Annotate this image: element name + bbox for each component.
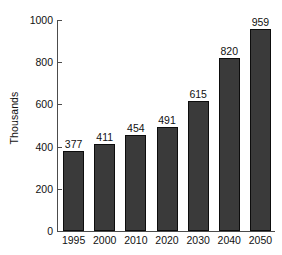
y-tick-label: 400 — [35, 141, 53, 153]
bar-value-label: 491 — [158, 114, 176, 126]
x-axis-label: 1995 — [62, 234, 85, 246]
bar: 820 — [219, 58, 240, 231]
bar: 454 — [125, 135, 146, 231]
y-tick-mark — [58, 62, 62, 63]
x-axis-label: 2000 — [93, 234, 116, 246]
bar-value-label: 411 — [96, 131, 113, 143]
y-tick-mark — [58, 104, 62, 105]
bar-chart: Thousands 02004006008001000 377411454491… — [0, 0, 282, 255]
bar-value-label: 615 — [189, 88, 207, 100]
x-axis-label: 2010 — [124, 234, 147, 246]
bar: 959 — [250, 29, 271, 231]
x-axis-label: 2040 — [218, 234, 241, 246]
x-axis-line — [57, 231, 275, 232]
bar-value-label: 377 — [65, 138, 83, 150]
y-tick-label: 200 — [35, 183, 53, 195]
x-axis-label: 2020 — [155, 234, 178, 246]
y-tick-label: 800 — [35, 56, 53, 68]
y-axis-title: Thousands — [8, 78, 20, 158]
plot-area: 02004006008001000 377411454491615820959 … — [57, 20, 275, 231]
bar-value-label: 454 — [127, 122, 145, 134]
y-tick-label: 600 — [35, 98, 53, 110]
y-axis-line — [57, 20, 58, 231]
x-axis-label: 2030 — [186, 234, 209, 246]
bar: 411 — [94, 144, 115, 231]
bar: 491 — [157, 127, 178, 231]
y-tick-mark — [58, 189, 62, 190]
y-tick-label: 0 — [47, 225, 53, 237]
x-axis-label: 2050 — [249, 234, 272, 246]
y-tick-mark — [58, 231, 62, 232]
bar: 377 — [63, 151, 84, 231]
y-tick-mark — [58, 147, 62, 148]
bar-value-label: 820 — [221, 45, 239, 57]
bar: 615 — [188, 101, 209, 231]
y-tick-label: 1000 — [30, 14, 53, 26]
bar-value-label: 959 — [252, 16, 270, 28]
y-tick-mark — [58, 20, 62, 21]
